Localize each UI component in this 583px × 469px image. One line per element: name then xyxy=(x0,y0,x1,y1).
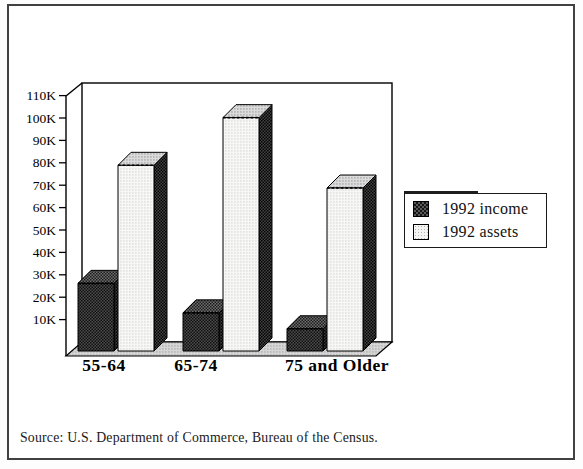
y-tick-label: 70K xyxy=(33,178,57,193)
assets-bar-75 and Older-front xyxy=(327,188,363,351)
assets-bar-65-74-side xyxy=(259,105,272,351)
legend-item-assets: 1992 assets xyxy=(413,223,540,241)
legend: 1992 income 1992 assets xyxy=(404,193,547,248)
y-tick-label: 100K xyxy=(26,111,56,126)
y-tick-label: 50K xyxy=(33,223,57,238)
y-axis-corner-slant xyxy=(66,83,82,96)
x-category-label: 75 and Older xyxy=(285,355,389,375)
income-bar-65-74-front xyxy=(183,313,219,351)
income-bar-55-64-front xyxy=(78,283,114,351)
y-tick-label: 90K xyxy=(33,133,57,148)
income-bar-75 and Older-front xyxy=(287,329,323,351)
x-category-label: 65-74 xyxy=(174,355,217,375)
y-tick-label: 10K xyxy=(33,312,57,327)
assets-bar-55-64-side xyxy=(154,152,167,351)
legend-label-assets: 1992 assets xyxy=(442,223,519,241)
y-tick-label: 30K xyxy=(33,267,57,282)
legend-item-income: 1992 income xyxy=(413,200,540,218)
legend-label-income: 1992 income xyxy=(442,200,528,218)
legend-shadow-artifact xyxy=(404,191,478,194)
y-tick-label: 110K xyxy=(27,88,57,103)
y-tick-label: 20K xyxy=(33,290,57,305)
assets-bar-55-64-front xyxy=(118,165,154,351)
y-tick-label: 80K xyxy=(33,155,57,170)
x-category-label: 55-64 xyxy=(82,355,125,375)
y-tick-label: 40K xyxy=(33,245,57,260)
assets-bar-65-74-front xyxy=(223,118,259,351)
assets-swatch-icon xyxy=(413,224,429,240)
chart-figure: 10K20K30K40K50K60K70K80K90K100K110K55-64… xyxy=(0,0,583,469)
assets-bar-75 and Older-side xyxy=(363,175,376,351)
y-tick-label: 60K xyxy=(33,200,57,215)
source-note: Source: U.S. Department of Commerce, Bur… xyxy=(20,430,378,446)
income-swatch-icon xyxy=(413,201,429,217)
